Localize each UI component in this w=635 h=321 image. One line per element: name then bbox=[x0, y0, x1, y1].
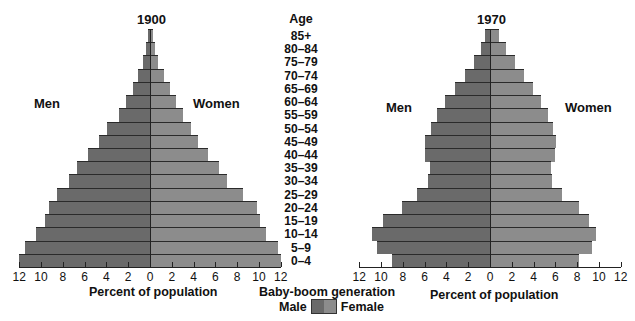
age-label: 55–59 bbox=[276, 108, 326, 122]
chart-title-1970: 1970 bbox=[477, 12, 506, 27]
x-tick bbox=[150, 262, 151, 267]
center-line-1970 bbox=[490, 29, 491, 267]
x-tick-label: 0 bbox=[140, 270, 160, 284]
x-tick-label: 10 bbox=[589, 270, 609, 284]
bar-male bbox=[474, 55, 490, 69]
bar-female bbox=[490, 95, 541, 109]
male-swatch bbox=[312, 300, 324, 313]
age-label: 30–34 bbox=[276, 174, 326, 188]
x-tick-label: 8 bbox=[53, 270, 73, 284]
x-tick-label: 10 bbox=[371, 270, 391, 284]
x-tick bbox=[490, 262, 491, 267]
x-axis-1900 bbox=[19, 267, 281, 268]
bar-male bbox=[57, 188, 150, 202]
x-tick bbox=[446, 262, 447, 267]
bars-1970 bbox=[340, 29, 635, 267]
x-tick bbox=[63, 262, 64, 267]
bar-male bbox=[126, 95, 150, 109]
x-label-1970: Percent of population bbox=[430, 288, 558, 302]
legend-title: Baby-boom generation bbox=[259, 285, 395, 299]
bar-male bbox=[372, 227, 490, 241]
x-tick-label: 12 bbox=[349, 270, 369, 284]
age-label: 80–84 bbox=[276, 42, 326, 56]
x-axis-1970 bbox=[359, 267, 621, 268]
bar-male bbox=[425, 135, 490, 149]
age-label: 65–69 bbox=[276, 82, 326, 96]
x-tick bbox=[106, 262, 107, 267]
bar-male bbox=[49, 201, 150, 215]
bar-female bbox=[150, 188, 243, 202]
bar-female bbox=[490, 174, 552, 188]
x-tick bbox=[381, 262, 382, 267]
x-tick-label: 0 bbox=[480, 270, 500, 284]
female-swatch bbox=[324, 300, 336, 313]
x-tick-label: 2 bbox=[118, 270, 138, 284]
legend-swatch bbox=[311, 299, 337, 314]
x-tick bbox=[577, 262, 578, 267]
bar-female bbox=[150, 174, 227, 188]
x-tick bbox=[534, 262, 535, 267]
age-label: 15–19 bbox=[276, 214, 326, 228]
x-tick bbox=[128, 262, 129, 267]
age-label: 60–64 bbox=[276, 95, 326, 109]
x-tick-label: 2 bbox=[458, 270, 478, 284]
bar-female bbox=[490, 55, 515, 69]
bar-male bbox=[437, 108, 490, 122]
age-label: 85+ bbox=[276, 29, 326, 43]
x-tick bbox=[555, 262, 556, 267]
age-label: 0–4 bbox=[276, 254, 326, 268]
age-label: 10–14 bbox=[276, 227, 326, 241]
bar-female bbox=[150, 214, 260, 228]
x-tick bbox=[19, 262, 20, 267]
bar-female bbox=[150, 161, 219, 175]
x-tick-label: 12 bbox=[271, 270, 291, 284]
x-tick-label: 8 bbox=[227, 270, 247, 284]
bar-female bbox=[490, 161, 551, 175]
x-label-1900: Percent of population bbox=[89, 285, 217, 299]
bar-male bbox=[99, 135, 150, 149]
age-label: 5–9 bbox=[276, 241, 326, 255]
chart-title-1900: 1900 bbox=[137, 12, 166, 27]
x-tick bbox=[215, 262, 216, 267]
bar-male bbox=[445, 95, 490, 109]
bar-female bbox=[150, 82, 170, 96]
age-header: Age bbox=[276, 12, 326, 26]
bar-male bbox=[481, 42, 490, 56]
age-label: 75–79 bbox=[276, 55, 326, 69]
bar-male bbox=[428, 174, 490, 188]
x-tick bbox=[425, 262, 426, 267]
x-tick-label: 4 bbox=[436, 270, 456, 284]
x-tick bbox=[512, 262, 513, 267]
age-label: 50–54 bbox=[276, 122, 326, 136]
bar-female bbox=[490, 108, 548, 122]
center-line-1900 bbox=[150, 29, 151, 267]
age-label: 40–44 bbox=[276, 148, 326, 162]
legend: Male Female bbox=[279, 299, 384, 314]
bar-male bbox=[417, 188, 490, 202]
x-tick-label: 4 bbox=[184, 270, 204, 284]
bar-female bbox=[490, 214, 589, 228]
x-tick-label: 12 bbox=[611, 270, 631, 284]
bar-female bbox=[150, 55, 158, 69]
x-tick bbox=[194, 262, 195, 267]
bar-female bbox=[490, 188, 562, 202]
bar-female bbox=[490, 148, 555, 162]
bar-male bbox=[36, 227, 150, 241]
bar-female bbox=[490, 29, 499, 43]
bar-male bbox=[465, 69, 490, 83]
x-tick-label: 8 bbox=[393, 270, 413, 284]
x-tick bbox=[403, 262, 404, 267]
bar-male bbox=[119, 108, 150, 122]
bar-female bbox=[490, 122, 553, 136]
bar-female bbox=[150, 95, 176, 109]
x-tick bbox=[85, 262, 86, 267]
x-tick bbox=[599, 262, 600, 267]
x-tick-label: 6 bbox=[415, 270, 435, 284]
bar-male bbox=[88, 148, 150, 162]
age-label: 35–39 bbox=[276, 161, 326, 175]
bar-male bbox=[107, 122, 150, 136]
x-tick-label: 10 bbox=[249, 270, 269, 284]
bar-female bbox=[490, 254, 579, 268]
bar-male bbox=[383, 214, 490, 228]
bar-male bbox=[69, 174, 150, 188]
